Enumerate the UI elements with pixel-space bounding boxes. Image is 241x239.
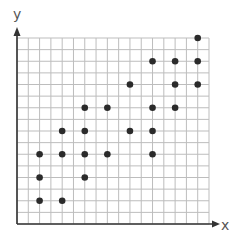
x-axis-label: x	[221, 218, 229, 232]
data-point	[59, 128, 66, 135]
data-point	[59, 197, 66, 204]
data-point	[81, 128, 88, 135]
scatter-plot	[0, 0, 241, 239]
data-point	[194, 35, 201, 42]
y-axis-label: y	[13, 7, 21, 21]
data-point	[149, 128, 156, 135]
data-point	[81, 104, 88, 111]
x-axis-arrow-icon	[212, 221, 220, 228]
data-point	[194, 58, 201, 65]
data-point	[104, 104, 111, 111]
data-point	[172, 58, 179, 65]
data-point	[81, 151, 88, 158]
data-point	[36, 197, 43, 204]
axes	[14, 27, 221, 228]
data-point	[127, 81, 134, 88]
y-axis-arrow-icon	[14, 27, 21, 36]
data-point	[127, 128, 134, 135]
data-point	[81, 174, 88, 181]
data-point	[36, 174, 43, 181]
data-point	[149, 104, 156, 111]
data-point	[149, 151, 156, 158]
data-point	[104, 151, 111, 158]
data-point	[59, 151, 66, 158]
data-point	[194, 81, 201, 88]
data-point	[172, 81, 179, 88]
grid-lines	[17, 38, 209, 224]
data-point	[149, 58, 156, 65]
data-point	[36, 151, 43, 158]
data-point	[172, 104, 179, 111]
